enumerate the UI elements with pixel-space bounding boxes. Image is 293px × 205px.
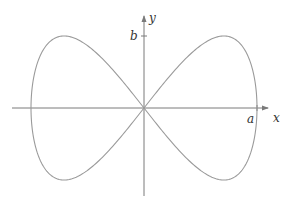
figure-eight-diagram: y b a x: [0, 0, 293, 205]
x-axis-label: x: [273, 111, 280, 125]
b-label: b: [130, 29, 138, 43]
y-axis-label: y: [148, 11, 156, 25]
a-label: a: [247, 112, 254, 126]
